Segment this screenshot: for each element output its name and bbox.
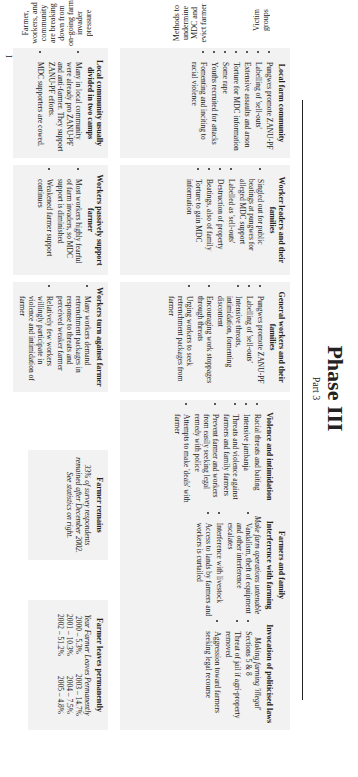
side-label-breakdown: Farmer, workers, and community are break…	[21, 0, 93, 46]
outcome-heading: Farmer remains	[95, 455, 104, 555]
list-item: Prevent farmer and workers from easily s…	[193, 414, 220, 508]
list-item: Intensive jambanja	[242, 414, 251, 508]
list-item: Relatively few workers willingly partici…	[18, 296, 54, 387]
side-label-methods: Methods to undermine MDC and evict farme…	[172, 0, 208, 46]
stats-grid: 2000 – 5.3% 2003 – 14.7% 2001 – 10.3% 20…	[56, 605, 83, 725]
list-item: Pungwes promote ZANU-PF	[265, 62, 274, 153]
list-item: Torture for MDC information	[232, 62, 241, 153]
subgroup-interference: Interference with farming Make farm oper…	[171, 514, 274, 617]
list-item: Fomenting and inciting to racial violenc…	[190, 62, 208, 153]
group-heading: Worker leaders and their families	[268, 170, 286, 270]
group-worker-leaders: Worker leaders and their families Single…	[120, 165, 290, 275]
list-item: Attempts to make 'deals' with farmer	[173, 414, 191, 508]
group-local-farm-community: Local farm community Pungwes promote ZAN…	[120, 48, 290, 158]
list-item: Urging workers to seek retrenchment pack…	[167, 296, 194, 387]
group-heading: Local farm community	[277, 53, 286, 153]
list-item: Labelling of 'sell-outs'	[245, 296, 254, 387]
outcome-farmer-remains: Farmer remains 33% of survey respondents…	[28, 450, 108, 560]
list-item: Many in local community were already pro…	[47, 62, 83, 153]
list-item: MDC supporters are cowed.	[36, 62, 45, 153]
subgroup-heading: Violence and intimidation	[265, 405, 274, 508]
list-item: Many workers demand retrenchment package…	[56, 296, 92, 387]
list-item: Torture to gain MDC information	[185, 179, 203, 270]
list-item: Threat of jail if agri-property removed	[224, 631, 242, 725]
list-item: Most workers highly fearful of farm inva…	[56, 179, 83, 270]
outcome-heading: Workers passively support farmer	[86, 170, 104, 270]
subgroup-note: Make farm operations untenable	[253, 514, 262, 617]
list-item: Extensive assaults and arson	[243, 62, 252, 153]
group-heading: Farmers and family	[277, 405, 286, 725]
group-farmers-and-family: Farmers and family Violence and intimida…	[120, 400, 290, 730]
connector-line	[302, 100, 303, 700]
list-item: Beatings, also of family	[205, 179, 214, 270]
list-item: Aggression toward farmers seeking legal …	[204, 631, 222, 725]
group-heading: General workers and their families	[268, 287, 286, 387]
subgroup-laws: Invocation of politicised laws Making fa…	[171, 622, 274, 725]
list-item: Pungwes promote ZANU-PF	[256, 296, 265, 387]
outcome-text: 33% of survey respondents remained after…	[65, 455, 92, 555]
stat: 2005 – 4.8%	[56, 665, 65, 725]
list-item: Singled out for public beatings at pungw…	[238, 179, 265, 270]
side-label-victims: Victim groups	[252, 0, 270, 40]
stat: 2004 – 7.5%	[65, 665, 74, 725]
diagram-subtitle: Part 3	[311, 0, 322, 777]
diagram: Phase III Part 3 Local farm community Pu…	[0, 0, 358, 777]
group-general-workers: General workers and their families Pungw…	[120, 282, 290, 392]
subgroup-violence: Violence and intimidation Racial threats…	[171, 405, 274, 508]
outcome-heading: Local community usually divided in two c…	[86, 53, 104, 153]
outcome-text: Year Farmer Leaves Permanently	[83, 605, 92, 725]
subgroup-heading: Invocation of politicised laws	[265, 622, 274, 725]
list-item: Interference with livestock	[215, 523, 224, 617]
diagram-title: Phase III	[322, 0, 348, 777]
subgroup-note: Making farming 'illegal'	[253, 622, 262, 725]
outcome-workers-against: Workers turn against farmer Many workers…	[13, 282, 108, 392]
stat: 2003 – 14.7%	[74, 665, 83, 725]
list-item: Access to lands by farmers and workers i…	[195, 523, 213, 617]
list-item: Vandalism, theft of equipment and other …	[226, 523, 253, 617]
outcome-workers-passive: Workers passively support farmer Most wo…	[13, 165, 108, 275]
subgroup-heading: Interference with farming	[265, 514, 274, 617]
outcome-farmer-leaves: Farmer leaves permanently Year Farmer Le…	[28, 600, 108, 730]
stat: 2001 – 10.3%	[65, 605, 74, 665]
list-item: Racial threats and baiting	[253, 414, 262, 508]
list-item: Some rape	[221, 62, 230, 153]
list-item: Intensive threats, intimidation, fomenti…	[216, 296, 243, 387]
list-item: Sections 5 & 8	[244, 631, 253, 725]
list-item: Youths recruited for attacks	[210, 62, 219, 153]
outcome-heading: Workers turn against farmer	[95, 287, 104, 387]
list-item: Encouraging work stoppages through threa…	[196, 296, 214, 387]
list-item: Labelled as 'sell-outs'	[227, 179, 236, 270]
stat: 2000 – 5.3%	[74, 605, 83, 665]
list-item: Destruction of property	[216, 179, 225, 270]
stat: 2002 – 51.2%	[56, 605, 65, 665]
list-item: Threats and violence against farmers and…	[222, 414, 240, 508]
list-item: Labelling of 'sell-outs'	[254, 62, 263, 153]
outcome-local-community: Local community usually divided in two c…	[13, 48, 108, 158]
outcome-heading: Farmer leaves permanently	[95, 605, 104, 725]
list-item: Weakened farmer support continues	[36, 179, 54, 270]
